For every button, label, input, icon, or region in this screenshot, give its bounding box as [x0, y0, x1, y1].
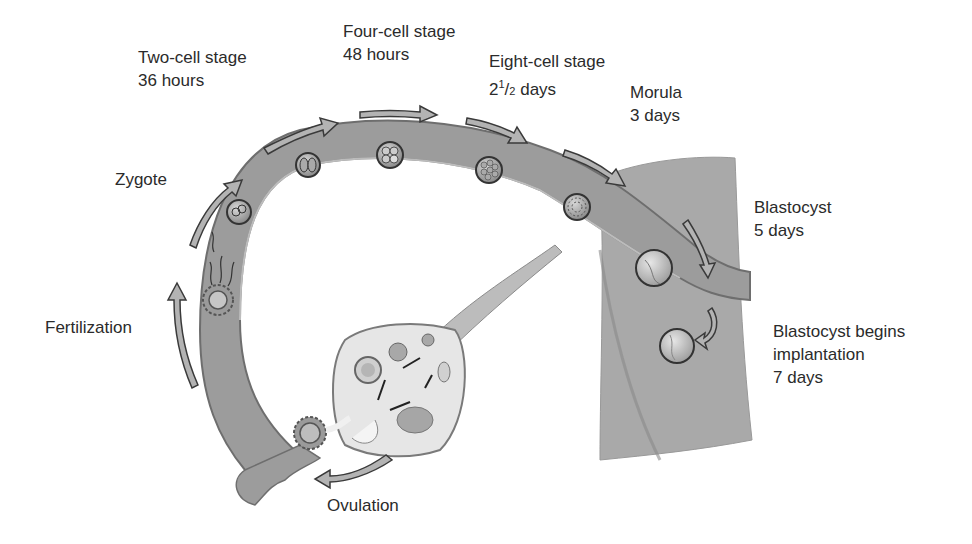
stage-time: 7 days	[773, 366, 905, 389]
morula-cell	[564, 194, 590, 220]
label-four-cell-stage: Four-cell stage 48 hours	[343, 20, 455, 66]
arrow-fertilization	[168, 283, 198, 388]
stage-time: 48 hours	[343, 43, 455, 66]
label-zygote: Zygote	[115, 168, 167, 191]
implanting-blastocyst	[660, 329, 694, 363]
stage-name: Fertilization	[45, 316, 132, 339]
label-ovulation: Ovulation	[327, 494, 399, 517]
label-two-cell-stage: Two-cell stage 36 hours	[138, 46, 247, 92]
stage-name: Ovulation	[327, 494, 399, 517]
label-eight-cell-stage: Eight-cell stage 21/2 days	[489, 50, 605, 103]
stage-name: Eight-cell stage	[489, 50, 605, 73]
blastocyst-cell	[636, 250, 672, 286]
stage-name-line2: implantation	[773, 343, 905, 366]
label-blastocyst: Blastocyst 5 days	[754, 196, 831, 242]
label-fertilization: Fertilization	[45, 316, 132, 339]
arrow-ovulation	[315, 455, 392, 488]
four-cell-embryo	[377, 142, 403, 168]
label-morula: Morula 3 days	[630, 81, 682, 127]
stage-name: Blastocyst	[754, 196, 831, 219]
stage-time: 5 days	[754, 219, 831, 242]
stage-name: Two-cell stage	[138, 46, 247, 69]
stage-name: Morula	[630, 81, 682, 104]
eight-cell-embryo	[476, 157, 502, 183]
stage-name: Four-cell stage	[343, 20, 455, 43]
stage-time: 21/2 days	[489, 73, 605, 103]
stage-name: Blastocyst begins	[773, 320, 905, 343]
stage-time: 36 hours	[138, 69, 247, 92]
label-implantation: Blastocyst begins implantation 7 days	[773, 320, 905, 389]
zygote-cell	[227, 200, 251, 224]
stage-name: Zygote	[115, 168, 167, 191]
two-cell-embryo	[296, 153, 320, 177]
diagram-canvas: Two-cell stage 36 hours Four-cell stage …	[0, 0, 972, 544]
stage-time: 3 days	[630, 104, 682, 127]
